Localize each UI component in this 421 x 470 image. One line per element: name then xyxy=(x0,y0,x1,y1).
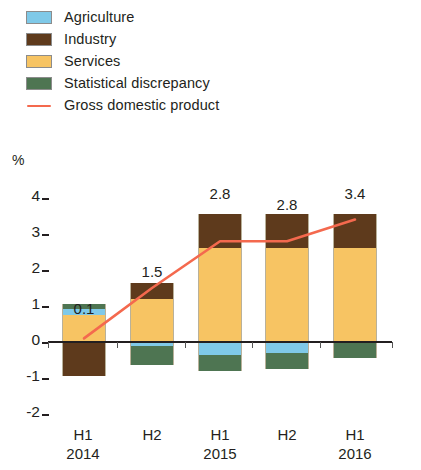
value-label-h2-2014: 1.5 xyxy=(122,263,182,280)
x-axis-tick xyxy=(392,342,393,348)
x-axis-tick xyxy=(320,342,321,348)
x-axis-year: 2014 xyxy=(48,444,118,463)
value-label-h1-2015: 2.8 xyxy=(190,185,250,202)
gdp-line-series xyxy=(0,0,421,470)
x-axis-label-h1-2014: H1 2014 xyxy=(48,425,118,463)
x-axis-label-h1-2015: H1 2015 xyxy=(185,425,255,463)
x-axis-period: H1 xyxy=(345,426,364,443)
x-axis-year: 2015 xyxy=(185,444,255,463)
x-axis-period: H2 xyxy=(277,426,296,443)
x-axis-period: H1 xyxy=(73,426,92,443)
x-axis-label-h2-2014: H2 xyxy=(117,425,187,444)
x-axis-label-h1-2016: H1 2016 xyxy=(320,425,390,463)
value-label-h1-2014: 0.1 xyxy=(54,300,114,317)
value-label-h2-2015: 2.8 xyxy=(257,196,317,213)
x-axis-tick xyxy=(117,342,118,348)
value-label-h1-2016: 3.4 xyxy=(325,185,385,202)
x-axis-tick xyxy=(48,342,49,348)
x-axis-period: H2 xyxy=(142,426,161,443)
x-axis-label-h2-2015: H2 xyxy=(252,425,322,444)
x-axis-tick xyxy=(252,342,253,348)
x-axis-year: 2016 xyxy=(320,444,390,463)
x-axis-period: H1 xyxy=(210,426,229,443)
x-axis-tick xyxy=(185,342,186,348)
chart-plot-area: % 4 3 2 1 0 -1 -2 0.1 1.5 2.8 2.8 3. xyxy=(0,0,421,470)
